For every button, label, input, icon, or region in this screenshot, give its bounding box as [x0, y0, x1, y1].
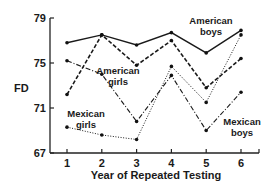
data-point	[239, 29, 243, 33]
data-point	[239, 90, 243, 94]
data-point	[170, 65, 174, 69]
data-point	[135, 138, 139, 142]
y-tick-label: 67	[34, 147, 46, 159]
data-point	[170, 74, 174, 78]
series-label: Mexican	[67, 108, 105, 119]
x-tick-label: 2	[99, 157, 105, 169]
data-point	[65, 41, 69, 45]
data-point	[170, 39, 174, 43]
data-point	[135, 120, 139, 124]
data-point	[135, 43, 139, 47]
data-point	[100, 133, 104, 137]
data-point	[239, 33, 243, 37]
series-label: girls	[76, 119, 96, 130]
x-tick-label: 6	[238, 157, 244, 169]
x-tick-label: 5	[203, 157, 209, 169]
data-point	[65, 125, 69, 129]
series-label: boys	[200, 26, 222, 37]
data-point	[239, 57, 243, 61]
data-point	[170, 31, 174, 35]
y-tick-label: 71	[34, 102, 46, 114]
data-point	[65, 59, 69, 63]
series-american-girls	[67, 35, 241, 95]
data-point	[204, 51, 208, 55]
data-point	[65, 93, 69, 97]
data-point	[204, 101, 208, 105]
series-label: American	[189, 15, 232, 26]
x-tick-label: 3	[134, 157, 140, 169]
x-tick-label: 1	[64, 157, 70, 169]
series-label: American	[96, 65, 139, 76]
series-labels: AmericanboysAmericangirlsMexicanboysMexi…	[67, 15, 261, 138]
data-point	[204, 86, 208, 90]
series-label: boys	[231, 127, 253, 138]
series-label: girls	[108, 76, 128, 87]
axes: 67717579123456	[34, 12, 259, 169]
y-tick-label: 79	[34, 12, 46, 24]
data-point	[204, 129, 208, 133]
data-point	[100, 33, 104, 37]
x-tick-label: 4	[168, 157, 175, 169]
y-axis-title: FD	[14, 82, 29, 94]
series-label: Mexican	[223, 116, 261, 127]
line-chart: 67717579123456 AmericanboysAmericangirls…	[0, 0, 273, 193]
y-tick-label: 75	[34, 57, 46, 69]
x-axis-title: Year of Repeated Testing	[91, 169, 222, 181]
